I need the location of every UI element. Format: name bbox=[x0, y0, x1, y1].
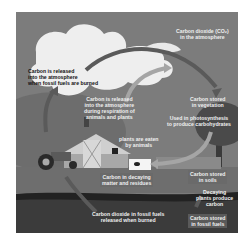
barn-window bbox=[112, 148, 118, 154]
label-photosynthesis: Used in photosynthesis to produce carboh… bbox=[167, 115, 231, 127]
tractor-wheel-front bbox=[69, 161, 77, 169]
label-decaying-matter: Carbon in decaying matter and residues bbox=[100, 173, 153, 187]
label-vegetation: Carbon stored in vegetation bbox=[190, 96, 225, 108]
carbon-cycle-diagram: Carbon is released into the atmosphere w… bbox=[16, 12, 238, 233]
label-soil: Carbon stored in soils bbox=[188, 170, 227, 184]
tractor-body bbox=[51, 152, 71, 161]
label-decaying-plants: Decaying plants produce carbon bbox=[196, 189, 233, 207]
label-co2-atmosphere: Carbon dioxide (CO₂) in the atmosphere bbox=[176, 28, 229, 40]
cow bbox=[129, 159, 151, 170]
label-eaten: plants are eaten by animals bbox=[119, 136, 159, 148]
label-fossil-co2: Carbon dioxide in fossil fuels released … bbox=[92, 211, 164, 223]
label-fossil-stored: Carbon stored in fossil fuels bbox=[188, 214, 227, 228]
label-respiration: Carbon is released into the atmosphere d… bbox=[84, 96, 135, 120]
label-fossil-release: Carbon is released into the atmosphere w… bbox=[28, 68, 98, 86]
